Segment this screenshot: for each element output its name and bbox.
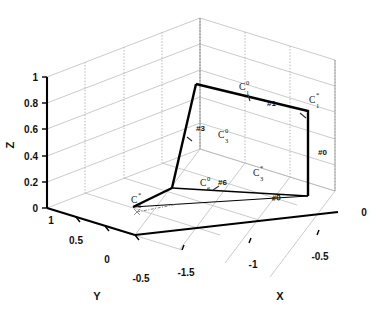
y-tick-0: 0 — [104, 254, 110, 265]
label-c6-star-base: C — [131, 195, 137, 205]
label-edge-0-bottom: #0 — [271, 193, 281, 203]
label-c3-star-sub: 3 — [260, 175, 263, 182]
label-c1-star-sub: 1 — [316, 102, 319, 109]
z-axis-title: Z — [4, 141, 16, 148]
label-c6-0-sup: 0 — [207, 175, 210, 182]
label-c1-0-base: C — [239, 82, 245, 92]
label-c1-star: C * 1 — [309, 91, 319, 109]
label-c3-0-sup: 0 — [225, 127, 228, 134]
figure-3d-plot: 1 0.8 0.6 0.4 0.2 0 Z 1 0.5 0 -0.5 Y -1.… — [0, 0, 383, 324]
x-tick-m0p5: -0.5 — [311, 251, 329, 262]
z-tick-0: 0 — [32, 203, 38, 214]
label-c3-star-sup: * — [260, 164, 263, 171]
label-edge-1: #1 — [267, 99, 276, 108]
label-c1-star-base: C — [309, 95, 315, 105]
grid-floor — [47, 149, 335, 277]
label-c1-0-sub: 1 — [246, 89, 249, 96]
label-c1-0-sup: 0 — [246, 79, 249, 86]
y-axis-title: Y — [93, 290, 101, 302]
y-tick-1: 1 — [48, 215, 54, 226]
x-axis-line — [135, 212, 338, 235]
z-tick-0p4: 0.4 — [24, 151, 38, 162]
y-tick-0p5: 0.5 — [69, 235, 83, 246]
label-c6-0-base: C — [200, 178, 206, 188]
label-c3-0: C 0 3 — [218, 127, 228, 144]
z-tick-0p2: 0.2 — [24, 177, 38, 188]
label-c3-0-sub: 3 — [225, 137, 228, 144]
label-c3-star-base: C — [253, 168, 259, 178]
series-manipulator-chain — [133, 84, 308, 207]
label-c3-0-base: C — [218, 130, 224, 140]
z-tick-0p8: 0.8 — [24, 98, 38, 109]
label-edge-0-right: #0 — [318, 148, 327, 157]
x-tick-m1: -1 — [249, 259, 258, 270]
label-c3-star: C * 3 — [253, 164, 263, 182]
joint-markers — [187, 95, 306, 190]
x-tick-0: 0 — [361, 207, 367, 218]
x-axis-title: X — [276, 290, 284, 302]
label-c1-star-sup: * — [316, 91, 319, 98]
label-edge-3: #3 — [196, 124, 205, 133]
label-c1-0: C 0 1 — [239, 79, 249, 96]
x-axis-ticks — [182, 230, 319, 250]
plot-canvas: 1 0.8 0.6 0.4 0.2 0 Z 1 0.5 0 -0.5 Y -1.… — [0, 0, 383, 324]
label-c6-star-sup: * — [138, 191, 141, 198]
y-tick-m0p5: -0.5 — [132, 273, 150, 284]
z-tick-0p6: 0.6 — [24, 124, 38, 135]
y-axis-line — [47, 208, 135, 235]
z-tick-1: 1 — [32, 72, 38, 83]
x-tick-m1p5: -1.5 — [177, 267, 195, 278]
label-edge-6: #6 — [218, 178, 227, 187]
